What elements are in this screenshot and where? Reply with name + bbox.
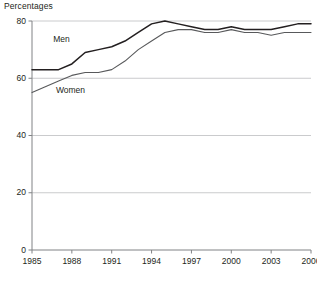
y-tick-label-80: 80 bbox=[4, 16, 26, 26]
y-tick-label-20: 20 bbox=[4, 187, 26, 197]
x-tick-label-1994: 1994 bbox=[135, 256, 169, 266]
x-tick-label-1997: 1997 bbox=[174, 256, 208, 266]
x-tick-label-1991: 1991 bbox=[95, 256, 129, 266]
x-tick-label-1988: 1988 bbox=[55, 256, 89, 266]
x-tick-label-1985: 1985 bbox=[15, 256, 49, 266]
chart-container: Percentages 020406080 198519881991199419… bbox=[0, 0, 317, 285]
chart-plot-area bbox=[0, 0, 317, 285]
series-label-men: Men bbox=[53, 34, 70, 44]
data-series-group bbox=[32, 21, 311, 93]
x-tick-label-2006: 2006 bbox=[294, 256, 317, 266]
y-tick-label-0: 0 bbox=[4, 245, 26, 255]
x-tick-label-2003: 2003 bbox=[254, 256, 288, 266]
y-tick-label-60: 60 bbox=[4, 73, 26, 83]
series-line-men bbox=[32, 21, 311, 70]
y-tick-marks-group bbox=[29, 21, 33, 250]
y-tick-label-40: 40 bbox=[4, 130, 26, 140]
gridlines-group bbox=[32, 21, 311, 193]
x-tick-marks-group bbox=[32, 250, 311, 254]
series-label-women: Women bbox=[56, 85, 85, 95]
x-tick-label-2000: 2000 bbox=[214, 256, 248, 266]
series-line-women bbox=[32, 30, 311, 93]
